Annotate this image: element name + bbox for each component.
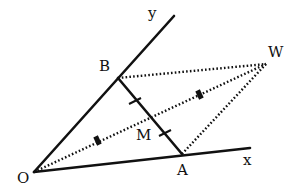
point-label-a: A [176,161,188,179]
axis-label-x: x [243,151,252,169]
point-label-m: M [136,126,151,144]
point-label-b: B [99,57,110,75]
point-label-w: W [268,43,284,61]
y-axis-ray [34,16,174,172]
x-axis-ray [34,148,250,172]
point-label-o: O [17,169,29,187]
block-mark-mw [195,89,203,99]
segment-aw [182,64,266,154]
segment-bw [118,64,266,78]
parallelogram-diagram: O A B W M x y [0,0,298,192]
axis-label-y: y [147,4,157,22]
